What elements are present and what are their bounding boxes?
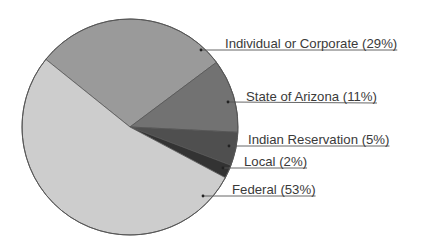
pie-slices xyxy=(22,19,238,235)
pie-label-state-of-arizona: State of Arizona (11%) xyxy=(227,89,377,104)
leader-dot xyxy=(228,145,231,148)
label-text: State of Arizona (11%) xyxy=(246,89,377,104)
pie-label-indian-reservation: Indian Reservation (5%) xyxy=(228,132,390,147)
leader-dot xyxy=(200,49,203,52)
leader-dot xyxy=(222,167,225,170)
label-text: Local (2%) xyxy=(244,154,307,169)
leader-dot xyxy=(202,195,205,198)
pie-label-individual-or-corporate: Individual or Corporate (29%) xyxy=(200,36,398,51)
label-text: Federal (53%) xyxy=(232,182,316,197)
leader-dot xyxy=(227,101,230,104)
pie-chart: Individual or Corporate (29%)State of Ar… xyxy=(0,0,436,247)
label-text: Indian Reservation (5%) xyxy=(248,132,389,147)
label-text: Individual or Corporate (29%) xyxy=(225,36,397,51)
